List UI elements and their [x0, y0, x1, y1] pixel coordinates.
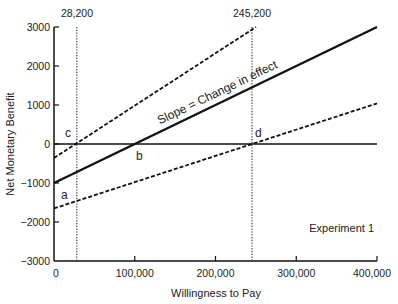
solid-line-point-estimate — [54, 27, 377, 183]
chart: 3000 2000 1000 0 −1000 −2000 −3000 0 100… — [0, 0, 398, 304]
y-axis-title: Net Monetary Benefit — [4, 92, 16, 195]
reference-label-245200: 245,200 — [233, 7, 271, 19]
y-tick-label: 3000 — [27, 21, 51, 33]
x-tick-label: 0 — [53, 267, 59, 279]
x-axis-title: Willingness to Pay — [171, 287, 261, 299]
y-tick-label: 0 — [44, 138, 50, 150]
point-label-b: b — [136, 149, 143, 163]
slope-annotation: Slope = Change in effect — [155, 57, 280, 127]
x-tick-label: 400,000 — [353, 267, 391, 279]
x-tick-labels: 0 100,000 200,000 300,000 400,000 — [53, 267, 391, 279]
y-tick-label: −1000 — [21, 177, 51, 189]
experiment-label: Experiment 1 — [309, 222, 374, 234]
point-label-a: a — [61, 188, 68, 202]
x-tick-label: 300,000 — [277, 267, 315, 279]
point-label-c: c — [65, 126, 71, 140]
y-tick-label: −2000 — [21, 216, 51, 228]
x-tick-label: 100,000 — [116, 267, 154, 279]
reference-label-28200: 28,200 — [61, 7, 93, 19]
y-tick-labels: 3000 2000 1000 0 −1000 −2000 −3000 — [21, 21, 51, 267]
x-tick-label: 200,000 — [197, 267, 235, 279]
dashed-line-lower — [54, 103, 377, 208]
point-label-d: d — [255, 126, 262, 140]
y-tick-label: −3000 — [21, 255, 51, 267]
y-tick-label: 1000 — [27, 99, 51, 111]
y-tick-label: 2000 — [27, 60, 51, 72]
